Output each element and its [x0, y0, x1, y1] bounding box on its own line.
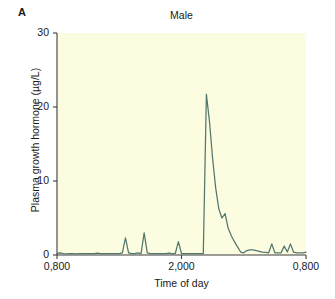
- chart-svg: [0, 0, 335, 299]
- tick-marks: [53, 33, 306, 259]
- axis-lines: [57, 33, 306, 255]
- data-series-group: [57, 94, 306, 253]
- data-series-0: [57, 94, 306, 253]
- figure-panel-a: A Male Plasma growth hormone (µg/L) Time…: [0, 0, 335, 299]
